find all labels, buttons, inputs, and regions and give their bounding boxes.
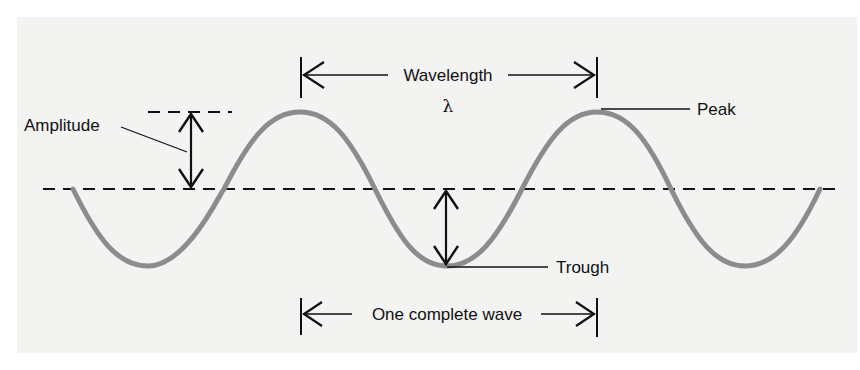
lambda-symbol: λ (443, 96, 454, 116)
wavelength-label: Wavelength (403, 66, 492, 85)
one-complete-wave-dimension: One complete wave (301, 298, 597, 337)
wave-diagram: Wavelength λ Peak Amplitude Trough One c… (0, 0, 860, 370)
amplitude-label: Amplitude (24, 116, 100, 135)
one-complete-wave-label: One complete wave (372, 305, 522, 324)
trough-label: Trough (556, 258, 609, 277)
trough-amplitude-arrow (434, 191, 458, 264)
peak-label: Peak (697, 100, 736, 119)
amplitude-dimension: Amplitude (24, 114, 203, 187)
amplitude-leader-line (121, 127, 187, 152)
wavelength-dimension: Wavelength λ (301, 57, 597, 116)
